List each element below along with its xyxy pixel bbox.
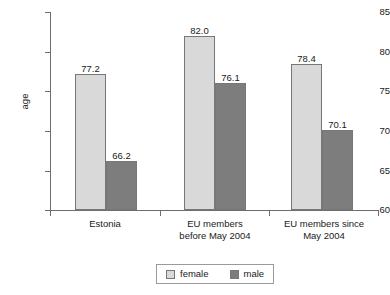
bar-estonia-male xyxy=(106,161,137,210)
bar-value-label: 70.1 xyxy=(316,120,359,130)
x-axis-line xyxy=(50,210,379,211)
category-line: May 2004 xyxy=(276,230,372,242)
legend-label-female: female xyxy=(180,269,209,279)
category-line: EU members since xyxy=(276,218,372,230)
bar-eu-since-2004-male xyxy=(322,130,353,210)
category-line: EU members xyxy=(168,218,262,230)
chart-legend: female male xyxy=(156,264,274,284)
x-category-label-estonia: Estonia xyxy=(60,218,150,230)
bar-value-label: 82.0 xyxy=(178,26,221,36)
x-tick-mark xyxy=(269,211,270,216)
y-axis-title: age xyxy=(19,72,30,132)
legend-swatch-female-icon xyxy=(166,270,175,279)
legend-item-male: male xyxy=(230,269,265,279)
bar-value-label: 78.4 xyxy=(285,54,328,64)
bar-eu-since-2004-female xyxy=(291,64,322,210)
bar-value-label: 66.2 xyxy=(100,151,143,161)
x-tick-mark xyxy=(160,211,161,216)
x-category-label-eu-since-2004: EU members since May 2004 xyxy=(276,218,372,241)
x-tick-mark xyxy=(378,211,379,216)
x-tick-mark xyxy=(50,211,51,216)
category-line: Estonia xyxy=(60,218,150,230)
bar-value-label: 77.2 xyxy=(69,64,112,74)
bar-estonia-female xyxy=(75,74,106,210)
legend-label-male: male xyxy=(244,269,265,279)
plot-area: 77.2 66.2 82.0 76.1 78.4 70.1 xyxy=(50,12,378,210)
bar-chart: age 85 80 75 70 65 60 77.2 66.2 82.0 76.… xyxy=(0,0,390,295)
legend-swatch-male-icon xyxy=(230,270,239,279)
category-line: before May 2004 xyxy=(168,230,262,242)
legend-item-female: female xyxy=(166,269,209,279)
bar-eu-before-2004-female xyxy=(184,36,215,210)
x-category-label-eu-before-2004: EU members before May 2004 xyxy=(168,218,262,241)
bar-value-label: 76.1 xyxy=(209,73,252,83)
bar-eu-before-2004-male xyxy=(215,83,246,211)
